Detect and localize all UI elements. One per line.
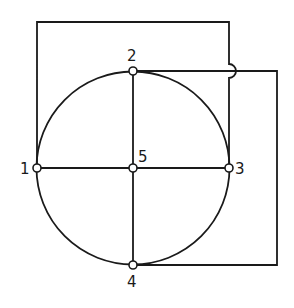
node-1 <box>33 164 41 172</box>
node-4 <box>129 261 137 269</box>
node-label-5: 5 <box>138 148 148 166</box>
node-label-3: 3 <box>235 160 245 178</box>
node-3 <box>225 164 233 172</box>
node-label-1: 1 <box>20 160 30 178</box>
node-label-4: 4 <box>127 273 137 291</box>
graph-diagram: 1 2 3 4 5 <box>0 0 294 308</box>
node-5 <box>129 164 137 172</box>
node-label-2: 2 <box>127 47 137 65</box>
node-2 <box>129 67 137 75</box>
edge-1-3-external <box>37 22 236 168</box>
